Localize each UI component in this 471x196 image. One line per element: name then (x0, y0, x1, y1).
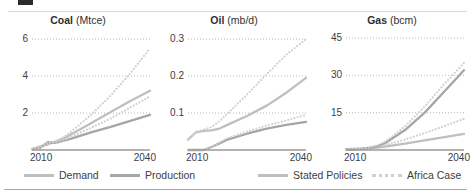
cropped-artifact (18, 0, 33, 5)
panel-title-unit: (mb/d) (227, 14, 257, 26)
legend-item-demand: Demand (24, 167, 99, 183)
legend-label-stated-policies: Stated Policies (293, 169, 362, 181)
ytick-label: 45 (316, 33, 342, 43)
series-line (188, 78, 306, 140)
ytick-label: 30 (316, 70, 342, 80)
panel-title-coal: Coal (Mtce) (2, 14, 154, 26)
legend-swatch-stated-policies-icon (258, 174, 288, 177)
panel-title-name: Gas (367, 14, 387, 26)
panel-title-gas: Gas (bcm) (316, 14, 468, 26)
ytick-label: 0.1 (158, 108, 184, 118)
legend-swatch-africa-case-icon (372, 174, 402, 177)
xtick-oil-start: 2010 (186, 153, 208, 163)
xtick-coal-end: 2040 (134, 153, 156, 163)
plot-area-coal (32, 28, 150, 150)
bottom-divider-rule (4, 189, 467, 190)
plot-svg-gas (346, 28, 464, 150)
plot-svg-oil (188, 28, 306, 150)
xtick-gas-start: 2010 (344, 153, 366, 163)
plot-svg-coal (32, 28, 150, 150)
plot-area-gas (346, 28, 464, 150)
series-line (188, 115, 306, 150)
legend-label-production: Production (145, 169, 195, 181)
ytick-label: 4 (2, 71, 28, 81)
ytick-label: 15 (316, 108, 342, 118)
panel-title-unit: (Mtce) (76, 14, 106, 26)
legend-item-africa-case: Africa Case (372, 167, 461, 183)
legend-swatch-demand-icon (24, 174, 54, 177)
legend-item-production: Production (110, 167, 195, 183)
series-line (346, 134, 464, 149)
xtick-gas-end: 2040 (448, 153, 470, 163)
legend-item-stated-policies: Stated Policies (258, 167, 362, 183)
figure-panel-group: Coal (Mtce) 2010 2040 246 Oil (mb/d) 201… (0, 0, 471, 196)
legend-label-demand: Demand (59, 169, 99, 181)
ytick-label: 0.2 (158, 71, 184, 81)
xtick-coal-start: 2010 (30, 153, 52, 163)
chart-panel-coal: Coal (Mtce) 2010 2040 246 (2, 14, 154, 160)
legend-swatch-production-icon (110, 174, 140, 177)
panel-title-name: Coal (50, 14, 73, 26)
chart-panel-gas: Gas (bcm) 2010 2040 153045 (316, 14, 468, 160)
panel-title-name: Oil (210, 14, 224, 26)
series-line (32, 48, 150, 149)
plot-area-oil (188, 28, 306, 150)
chart-legend: Demand Production Stated Policies Africa… (0, 167, 471, 185)
legend-label-africa-case: Africa Case (407, 169, 461, 181)
series-line (346, 119, 464, 149)
ytick-label: 2 (2, 108, 28, 118)
xtick-oil-end: 2040 (290, 153, 312, 163)
panel-title-oil: Oil (mb/d) (158, 14, 310, 26)
panel-title-unit: (bcm) (390, 14, 417, 26)
top-divider-rule (8, 11, 467, 12)
chart-panel-oil: Oil (mb/d) 2010 2040 0.10.20.3 (158, 14, 310, 160)
ytick-label: 6 (2, 34, 28, 44)
series-line (188, 122, 306, 150)
ytick-label: 0.3 (158, 34, 184, 44)
